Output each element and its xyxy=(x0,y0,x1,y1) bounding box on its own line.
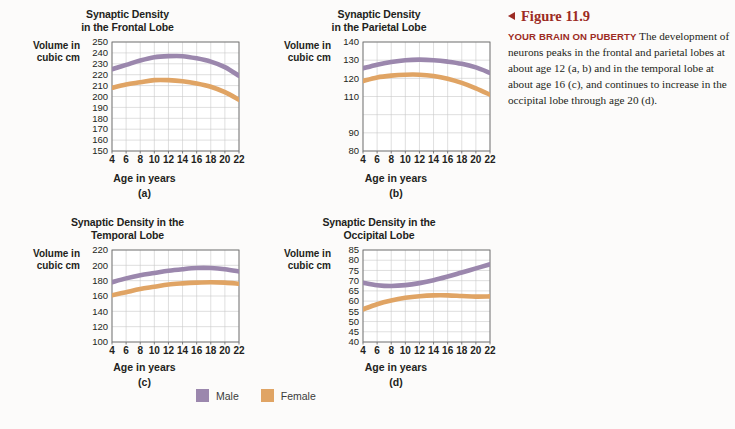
legend-label-female: Female xyxy=(281,390,316,402)
chart-legend: Male Female xyxy=(196,389,316,402)
x-axis-title-d: Age in years xyxy=(287,361,505,373)
figure-number-label: Figure 11.9 xyxy=(521,8,590,25)
svg-text:12: 12 xyxy=(163,154,175,165)
chart-title-d-line1: Synaptic Density in the xyxy=(253,216,505,229)
panel-label-c: (c) xyxy=(34,376,255,388)
chart-panel-b: Synaptic Density in the Parietal Lobe Vo… xyxy=(253,0,505,212)
svg-text:22: 22 xyxy=(484,154,496,165)
charts-area: Synaptic Density in the Frontal Lobe Vol… xyxy=(0,0,505,429)
chart-title-a-line1: Synaptic Density xyxy=(0,8,255,21)
legend-item-female: Female xyxy=(261,389,316,402)
svg-text:140: 140 xyxy=(92,305,108,316)
svg-text:100: 100 xyxy=(92,336,108,347)
y-axis-label-b-line1: Volume in xyxy=(247,40,331,52)
y-axis-label-a-line2: cubic cm xyxy=(0,52,80,64)
svg-text:6: 6 xyxy=(374,154,380,165)
chart-title-b: Synaptic Density in the Parietal Lobe xyxy=(253,0,505,38)
svg-text:180: 180 xyxy=(92,274,108,285)
chart-title-d: Synaptic Density in the Occipital Lobe xyxy=(253,210,505,246)
x-axis-title-c: Age in years xyxy=(34,361,255,373)
svg-text:16: 16 xyxy=(442,345,454,356)
chart-title-a: Synaptic Density in the Frontal Lobe xyxy=(0,0,255,38)
figure-caption-body: YOUR BRAIN ON PUBERTY The development of… xyxy=(508,29,730,109)
y-axis-label-b-line2: cubic cm xyxy=(247,52,331,64)
plot-b: 809011012013014046810121416182022 xyxy=(329,38,496,168)
figure-number-heading: Figure 11.9 xyxy=(508,8,730,25)
svg-text:4: 4 xyxy=(360,345,366,356)
svg-text:12: 12 xyxy=(414,345,426,356)
svg-text:14: 14 xyxy=(177,345,189,356)
panel-label-b: (b) xyxy=(287,187,505,199)
plot-d: 4045505560657075808546810121416182022 xyxy=(329,246,496,359)
svg-text:240: 240 xyxy=(92,47,108,58)
figure-caption-kicker: YOUR BRAIN ON PUBERTY xyxy=(508,31,636,42)
svg-text:12: 12 xyxy=(163,345,175,356)
svg-text:80: 80 xyxy=(348,254,359,265)
svg-text:220: 220 xyxy=(92,246,108,255)
svg-text:160: 160 xyxy=(92,290,108,301)
svg-text:75: 75 xyxy=(348,264,359,275)
svg-text:16: 16 xyxy=(191,345,203,356)
svg-text:22: 22 xyxy=(484,345,496,356)
plot-row-d: Volume in cubic cm 404550556065707580854… xyxy=(253,246,505,359)
svg-text:18: 18 xyxy=(456,345,468,356)
svg-text:45: 45 xyxy=(348,326,359,337)
svg-text:150: 150 xyxy=(92,145,108,156)
svg-text:60: 60 xyxy=(348,295,359,306)
svg-text:90: 90 xyxy=(348,127,359,138)
plot-row-b: Volume in cubic cm 809011012013014046810… xyxy=(253,38,505,170)
plot-row-a: Volume in cubic cm 150160170180190200210… xyxy=(0,38,255,170)
svg-text:12: 12 xyxy=(414,154,426,165)
chart-title-c-line2: Temporal Lobe xyxy=(0,229,255,242)
purple-square-icon xyxy=(196,389,209,402)
svg-text:70: 70 xyxy=(348,274,359,285)
svg-text:22: 22 xyxy=(233,345,245,356)
legend-label-male: Male xyxy=(216,390,239,402)
svg-text:85: 85 xyxy=(348,246,359,255)
svg-text:120: 120 xyxy=(92,320,108,331)
svg-text:40: 40 xyxy=(348,336,359,347)
chart-panel-c: Synaptic Density in the Temporal Lobe Vo… xyxy=(0,210,255,390)
chart-title-b-line2: in the Parietal Lobe xyxy=(253,21,505,34)
y-axis-label-a: Volume in cubic cm xyxy=(0,40,80,64)
plot-a: 1501601701801902002102202302402504681012… xyxy=(78,38,245,168)
figure-caption: Figure 11.9 YOUR BRAIN ON PUBERTY The de… xyxy=(508,8,730,109)
svg-text:14: 14 xyxy=(428,154,440,165)
svg-text:55: 55 xyxy=(348,305,359,316)
y-axis-label-d-line2: cubic cm xyxy=(247,260,331,272)
svg-text:22: 22 xyxy=(233,154,245,165)
chart-panel-d: Synaptic Density in the Occipital Lobe V… xyxy=(253,210,505,390)
panel-label-a: (a) xyxy=(34,187,255,199)
svg-text:250: 250 xyxy=(92,38,108,47)
svg-text:170: 170 xyxy=(92,123,108,134)
plot-c: 10012014016018020022046810121416182022 xyxy=(78,246,245,359)
svg-text:80: 80 xyxy=(348,145,359,156)
svg-text:4: 4 xyxy=(109,345,115,356)
orange-square-icon xyxy=(261,389,274,402)
y-axis-label-c-line1: Volume in xyxy=(0,248,80,260)
svg-text:190: 190 xyxy=(92,101,108,112)
y-axis-label-a-line1: Volume in xyxy=(0,40,80,52)
svg-text:120: 120 xyxy=(343,72,359,83)
svg-text:10: 10 xyxy=(149,345,161,356)
y-axis-label-c: Volume in cubic cm xyxy=(0,248,80,272)
left-triangle-icon xyxy=(508,12,515,20)
chart-title-d-line2: Occipital Lobe xyxy=(253,229,505,242)
panel-label-d: (d) xyxy=(287,376,505,388)
svg-text:10: 10 xyxy=(400,154,412,165)
svg-text:10: 10 xyxy=(149,154,161,165)
chart-panel-a: Synaptic Density in the Frontal Lobe Vol… xyxy=(0,0,255,212)
svg-text:18: 18 xyxy=(205,154,217,165)
svg-text:14: 14 xyxy=(177,154,189,165)
chart-title-c: Synaptic Density in the Temporal Lobe xyxy=(0,210,255,246)
svg-text:6: 6 xyxy=(123,345,129,356)
chart-title-b-line1: Synaptic Density xyxy=(253,8,505,21)
svg-text:6: 6 xyxy=(123,154,129,165)
x-axis-title-a: Age in years xyxy=(34,172,255,184)
svg-text:8: 8 xyxy=(388,154,394,165)
svg-text:6: 6 xyxy=(374,345,380,356)
svg-text:20: 20 xyxy=(470,154,482,165)
svg-text:8: 8 xyxy=(388,345,394,356)
svg-text:16: 16 xyxy=(442,154,454,165)
plot-row-c: Volume in cubic cm 100120140160180200220… xyxy=(0,246,255,359)
